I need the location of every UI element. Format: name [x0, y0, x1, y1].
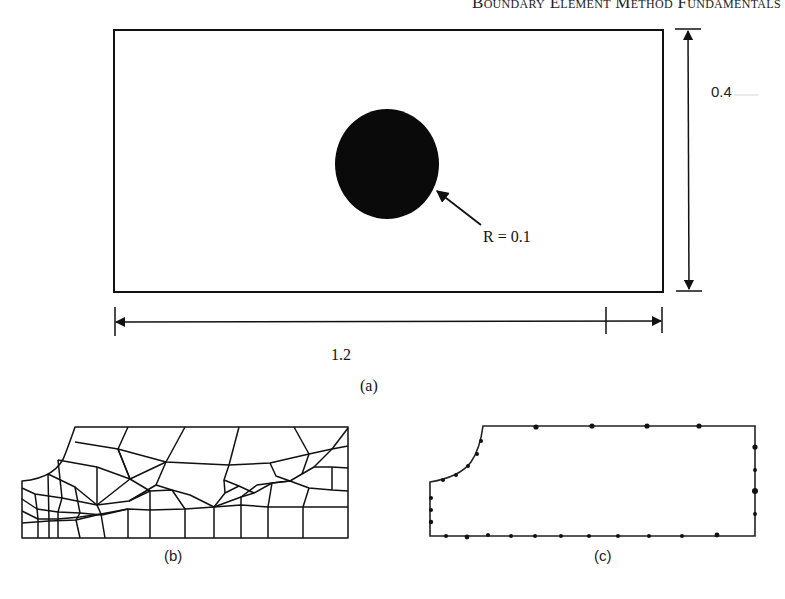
width-label: 1.2 [331, 346, 351, 363]
figure-c-boundary [429, 423, 758, 539]
radius-arrow [437, 191, 481, 225]
height-dimension [675, 29, 702, 291]
boundary-nodes [429, 423, 758, 539]
caption-b: (b) [164, 547, 182, 564]
width-dimension [115, 307, 662, 336]
height-label: 0.4 [711, 83, 732, 100]
figure-canvas: R = 0.1 0.4 1.2 (a) [0, 0, 785, 599]
hole-circle [335, 109, 439, 219]
caption-a: (a) [360, 377, 378, 395]
figure-b-mesh [22, 427, 348, 538]
radius-label: R = 0.1 [483, 228, 531, 245]
boundary-outline [430, 426, 755, 536]
figure-a: R = 0.1 0.4 1.2 (a) [114, 29, 758, 395]
caption-c: (c) [594, 547, 612, 564]
